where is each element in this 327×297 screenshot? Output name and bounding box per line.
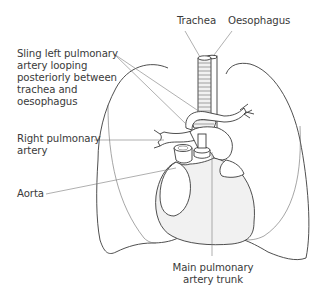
label-main-pulmonary-artery-trunk: Main pulmonary artery trunk — [166, 262, 260, 286]
right-pa-branches — [154, 130, 160, 148]
label-trachea: Trachea — [177, 15, 216, 27]
label-aorta: Aorta — [17, 188, 44, 200]
label-right-pulmonary-artery: Right pulmonary artery — [17, 133, 100, 157]
leader-oesophagus — [214, 31, 232, 55]
anatomy-diagram: Trachea Oesophagus Sling left pulmonary … — [0, 0, 327, 297]
label-sling-left-pulmonary-artery: Sling left pulmonary artery looping post… — [17, 48, 118, 108]
leader-trachea — [185, 31, 200, 57]
left-atrial-appendage — [220, 160, 244, 177]
label-oesophagus: Oesophagus — [228, 15, 290, 27]
leader-aorta — [46, 168, 176, 194]
vessel-behind — [198, 134, 206, 148]
leader-sling-1 — [114, 54, 200, 112]
aorta-opening — [174, 145, 192, 152]
right-lung-fissure — [108, 105, 156, 243]
